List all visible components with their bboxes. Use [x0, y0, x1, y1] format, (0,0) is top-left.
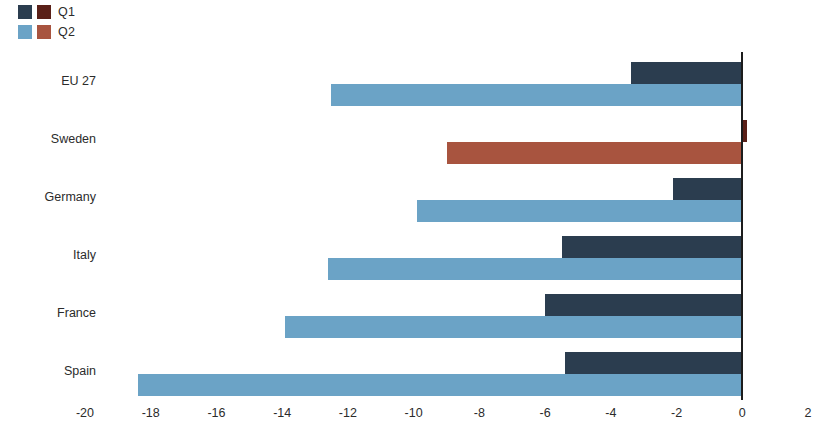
legend-swatch-q2-primary — [18, 25, 32, 39]
x-tick-label: -14 — [273, 406, 291, 420]
legend-label-q2: Q2 — [58, 25, 75, 39]
chart-legend: Q1 Q2 — [18, 4, 75, 40]
bar-q2-italy — [328, 258, 742, 280]
x-tick-label: -16 — [207, 406, 225, 420]
x-tick-label: -18 — [142, 406, 160, 420]
legend-item-q1: Q1 — [18, 4, 75, 20]
x-tick-label: -2 — [671, 406, 682, 420]
x-tick-label: -12 — [339, 406, 357, 420]
bar-q1-italy — [562, 236, 743, 258]
x-tick-label: -10 — [405, 406, 423, 420]
x-tick-label: 0 — [739, 406, 746, 420]
legend-swatch-q1-highlight — [37, 5, 51, 19]
bar-q2-spain — [138, 374, 743, 396]
bar-q1-germany — [673, 178, 742, 200]
x-tick-label: 2 — [805, 406, 812, 420]
legend-swatch-q1-primary — [18, 5, 32, 19]
zero-axis-line — [741, 52, 743, 400]
x-tick-label: -4 — [605, 406, 616, 420]
bar-q2-eu-27 — [331, 84, 742, 106]
bar-q2-germany — [417, 200, 742, 222]
bar-q1-eu-27 — [631, 62, 743, 84]
x-tick-label: -6 — [540, 406, 551, 420]
chart-plot-area: EU 27SwedenGermanyItalyFranceSpain — [0, 52, 820, 400]
legend-swatch-q2-highlight — [37, 25, 51, 39]
bar-q1-spain — [565, 352, 742, 374]
legend-label-q1: Q1 — [58, 5, 75, 19]
legend-item-q2: Q2 — [18, 24, 75, 40]
bar-q2-sweden — [447, 142, 743, 164]
bar-q1-france — [545, 294, 742, 316]
x-axis: -20-18-16-14-12-10-8-6-4-202 — [0, 400, 820, 434]
x-tick-label: -8 — [474, 406, 485, 420]
bars-layer — [0, 52, 820, 400]
bar-q2-france — [285, 316, 742, 338]
x-tick-label: -20 — [76, 406, 94, 420]
